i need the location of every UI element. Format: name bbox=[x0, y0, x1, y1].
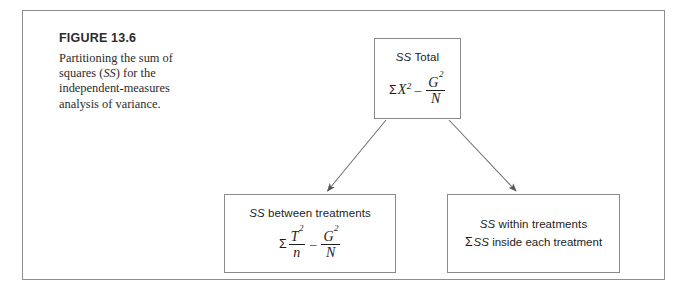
ss-total-label: Total bbox=[411, 51, 439, 63]
exponent-two: 2 bbox=[439, 69, 444, 79]
fraction-denominator: n bbox=[291, 245, 302, 260]
arrow-to-ss-within bbox=[449, 120, 516, 191]
arrow-to-ss-between bbox=[328, 120, 387, 191]
exponent-two: 2 bbox=[299, 223, 304, 233]
node-ss-within-treatments: SS within treatments ΣSS inside each tre… bbox=[447, 194, 620, 273]
ss-italic: SS bbox=[480, 218, 496, 230]
node-ss-between-title: SS between treatments bbox=[249, 207, 371, 219]
fraction-g2-over-n: G2 N bbox=[426, 74, 445, 107]
fraction-numerator: G2 bbox=[426, 74, 445, 91]
minus-operator: – bbox=[310, 236, 317, 252]
node-ss-between-formula: Σ T2 n – G2 N bbox=[279, 228, 341, 261]
fraction-denominator: N bbox=[429, 91, 442, 106]
figure-caption-block: FIGURE 13.6 Partitioning the sum of squa… bbox=[59, 31, 209, 112]
caption-italic-ss: SS bbox=[103, 66, 115, 80]
node-ss-total: SS Total ΣX2 – G2 N bbox=[374, 38, 461, 119]
variable-x: X bbox=[398, 82, 407, 98]
node-ss-within-title: SS within treatments bbox=[480, 218, 587, 230]
node-ss-within-description: ΣSS inside each treatment bbox=[465, 235, 602, 249]
ss-within-label: within treatments bbox=[495, 218, 587, 230]
ss-italic: SS bbox=[249, 207, 265, 219]
exponent-two: 2 bbox=[407, 81, 412, 91]
ss-within-detail-label: inside each treatment bbox=[489, 236, 602, 248]
fraction-numerator: G2 bbox=[321, 228, 340, 245]
ss-between-label: between treatments bbox=[265, 207, 371, 219]
fraction-numerator: T2 bbox=[289, 228, 305, 245]
node-ss-total-formula: ΣX2 – G2 N bbox=[389, 74, 446, 107]
fraction-denominator: N bbox=[324, 245, 337, 260]
node-ss-total-title: SS Total bbox=[396, 51, 439, 63]
variable-t: T bbox=[291, 228, 299, 243]
fraction-t2-over-n: T2 n bbox=[289, 228, 305, 261]
figure-caption-text: Partitioning the sum of squares (SS) for… bbox=[59, 51, 209, 112]
node-ss-between-treatments: SS between treatments Σ T2 n – G2 N bbox=[224, 194, 396, 273]
figure-frame: FIGURE 13.6 Partitioning the sum of squa… bbox=[22, 10, 665, 280]
fraction-g2-over-n: G2 N bbox=[321, 228, 340, 261]
variable-g: G bbox=[428, 74, 438, 89]
variable-g: G bbox=[323, 228, 333, 243]
ss-italic: SS bbox=[474, 236, 489, 248]
sigma-symbol: Σ bbox=[279, 237, 287, 251]
minus-operator: – bbox=[415, 82, 422, 98]
ss-italic: SS bbox=[396, 51, 412, 63]
sigma-symbol: Σ bbox=[389, 83, 397, 97]
exponent-two: 2 bbox=[334, 223, 339, 233]
sigma-symbol: Σ bbox=[465, 235, 473, 249]
figure-number-label: FIGURE 13.6 bbox=[59, 31, 209, 45]
